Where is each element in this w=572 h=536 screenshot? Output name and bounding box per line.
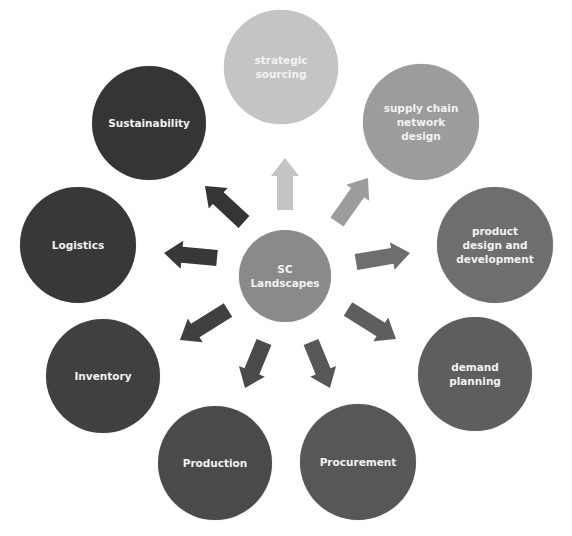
- node-production: Production: [158, 406, 272, 520]
- node-sustainability: Sustainability: [92, 66, 206, 180]
- arrow-to-procurement: [298, 337, 343, 394]
- node-logistics-label: Logistics: [52, 238, 104, 252]
- node-sustainability-label: Sustainability: [108, 116, 190, 130]
- center-node-sc-landscapes: SC Landscapes: [239, 230, 331, 322]
- node-demand-planning: demand planning: [418, 317, 532, 431]
- sc-landscapes-diagram: strategic sourcingsupply chain network d…: [0, 0, 572, 536]
- node-logistics: Logistics: [20, 187, 136, 303]
- node-product-design-and-development: product design and development: [437, 187, 553, 303]
- node-strategic-sourcing: strategic sourcing: [224, 10, 338, 124]
- arrow-to-inventory: [173, 298, 236, 352]
- node-demand-planning-label: demand planning: [449, 360, 501, 388]
- arrow-to-supply-chain-network-design: [326, 170, 380, 230]
- arrow-to-product-design-and-development: [354, 239, 413, 276]
- center-node-sc-landscapes-label: SC Landscapes: [250, 262, 319, 290]
- node-inventory: Inventory: [46, 319, 160, 433]
- arrow-to-strategic-sourcing: [271, 158, 299, 210]
- node-inventory-label: Inventory: [74, 369, 131, 383]
- arrow-to-sustainability: [196, 176, 254, 233]
- node-strategic-sourcing-label: strategic sourcing: [254, 53, 307, 81]
- arrow-to-logistics: [163, 239, 219, 272]
- node-production-label: Production: [183, 456, 248, 470]
- node-supply-chain-network-design: supply chain network design: [363, 64, 479, 180]
- node-product-design-and-development-label: product design and development: [456, 224, 534, 266]
- node-procurement: Procurement: [300, 404, 416, 520]
- node-procurement-label: Procurement: [320, 455, 397, 469]
- arrow-to-demand-planning: [341, 297, 404, 351]
- arrow-to-production: [232, 337, 277, 394]
- node-supply-chain-network-design-label: supply chain network design: [384, 101, 459, 143]
